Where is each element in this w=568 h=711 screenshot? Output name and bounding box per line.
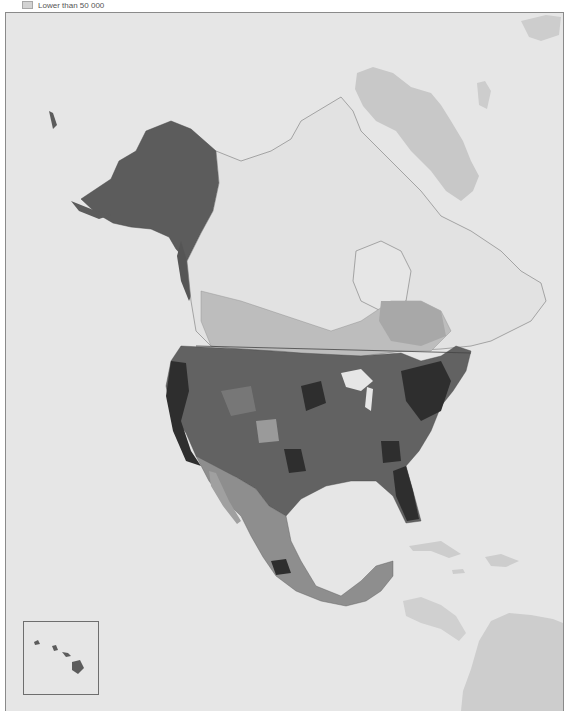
hawaii-big-island <box>72 660 84 674</box>
hawaii-map <box>24 622 98 694</box>
hawaii-island-oahu <box>52 645 58 651</box>
map-frame <box>5 12 564 711</box>
legend-swatch-lower-than-50000 <box>22 1 33 9</box>
legend-label-lower-than-50000: Lower than 50 000 <box>38 1 104 10</box>
north-america-map <box>6 13 563 711</box>
georgia-high <box>381 441 401 463</box>
hawaii-inset <box>23 621 99 695</box>
hawaii-island-kauai <box>34 640 40 645</box>
hawaii-island-maui <box>62 652 71 657</box>
map-legend: Lower than 50 000 <box>22 0 104 10</box>
us-plains-mid <box>256 419 279 443</box>
